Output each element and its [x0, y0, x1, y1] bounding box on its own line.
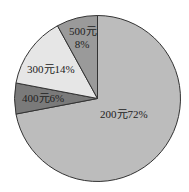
- slice-label-200: 200元72%: [100, 108, 148, 120]
- slice-label-500: 500元 8%: [69, 25, 95, 50]
- slice-label-500-name: 500元: [69, 25, 95, 37]
- slice-label-300: 300元14%: [27, 63, 75, 75]
- slice-label-400: 400元6%: [22, 92, 64, 104]
- slice-label-500-percent: 8%: [69, 38, 95, 50]
